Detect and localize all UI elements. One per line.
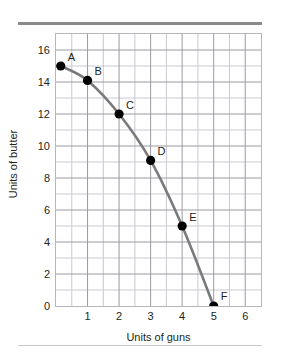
- plot-area: [55, 33, 262, 307]
- x-tick-label-4: 4: [179, 311, 185, 322]
- y-tick-label-2: 2: [44, 269, 50, 280]
- data-point-a[interactable]: [56, 61, 65, 70]
- x-tick-label-6: 6: [242, 311, 248, 322]
- y-tick-label-14: 14: [38, 77, 50, 88]
- point-label-d: D: [158, 146, 166, 157]
- data-point-f[interactable]: [209, 301, 218, 306]
- point-label-e: E: [189, 212, 196, 223]
- y-tick-label-10: 10: [38, 141, 50, 152]
- point-label-a: A: [68, 52, 75, 63]
- data-point-e[interactable]: [178, 221, 187, 230]
- y-tick-label-8: 8: [44, 173, 50, 184]
- chart-figure: 0246810121416 123456 Units of butter Uni…: [0, 0, 283, 359]
- chart-canvas: [56, 34, 261, 306]
- bottom-divider-rule: [18, 345, 262, 346]
- data-point-b[interactable]: [83, 76, 92, 85]
- x-tick-label-5: 5: [211, 311, 217, 322]
- y-tick-label-4: 4: [44, 237, 50, 248]
- x-tick-label-2: 2: [116, 311, 122, 322]
- y-tick-label-0: 0: [44, 301, 50, 312]
- ppf-curve: [61, 66, 214, 306]
- point-label-c: C: [126, 100, 134, 111]
- top-divider-rule: [18, 22, 262, 25]
- minor-gridlines: [56, 34, 261, 306]
- y-tick-label-16: 16: [38, 45, 50, 56]
- y-axis-title: Units of butter: [7, 99, 19, 229]
- x-axis-title: Units of guns: [55, 331, 262, 343]
- major-gridlines: [56, 34, 261, 306]
- point-label-b: B: [95, 66, 102, 77]
- y-tick-label-6: 6: [44, 205, 50, 216]
- x-tick-label-1: 1: [84, 311, 90, 322]
- x-tick-label-3: 3: [148, 311, 154, 322]
- data-point-c[interactable]: [114, 109, 123, 118]
- y-tick-label-12: 12: [38, 109, 50, 120]
- x-axis-tick-labels: 123456: [55, 311, 262, 327]
- data-point-d[interactable]: [146, 156, 155, 165]
- point-label-f: F: [221, 291, 228, 302]
